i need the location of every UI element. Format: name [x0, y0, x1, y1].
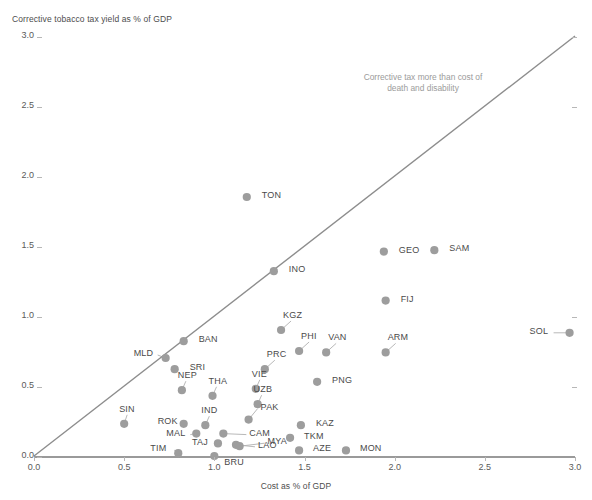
x-tick-label: 0.5: [104, 462, 144, 472]
y-tick-mark-right: [572, 317, 577, 318]
data-point-aze[interactable]: [295, 446, 303, 454]
x-tick-mark: [305, 457, 306, 461]
point-label-kaz: KAZ: [316, 418, 334, 428]
data-point-ton[interactable]: [243, 193, 251, 201]
point-label-nep: NEP: [178, 370, 197, 380]
y-tick-label: 1.5: [0, 240, 34, 250]
y-tick-mark: [37, 247, 42, 248]
y-tick-mark: [37, 387, 42, 388]
point-label-mon: MON: [360, 443, 382, 453]
data-point-png[interactable]: [313, 378, 321, 386]
parity-region-note: Corrective tax more than cost of death a…: [355, 72, 491, 94]
point-label-sol: SOL: [530, 326, 549, 336]
data-point-cam[interactable]: [219, 430, 227, 438]
point-label-kgz: KGZ: [283, 310, 302, 320]
point-label-ton: TON: [262, 190, 281, 200]
data-points: [120, 193, 574, 460]
data-point-ind[interactable]: [201, 421, 209, 429]
point-label-rok: ROK: [158, 416, 178, 426]
data-point-arm[interactable]: [382, 348, 390, 356]
parity-reference-line: [34, 36, 575, 456]
point-label-bru: BRU: [224, 457, 244, 467]
leader-lines: [124, 321, 569, 453]
data-point-kaz[interactable]: [297, 421, 305, 429]
data-point-mon[interactable]: [342, 446, 350, 454]
data-point-phi[interactable]: [295, 347, 303, 355]
data-point-tkm[interactable]: [286, 434, 294, 442]
x-tick-mark: [214, 457, 215, 461]
data-point-pak[interactable]: [244, 416, 252, 424]
data-point-sol[interactable]: [565, 329, 573, 337]
data-point-sin[interactable]: [120, 420, 128, 428]
y-tick-mark: [37, 177, 42, 178]
y-tick-label: 2.5: [0, 100, 34, 110]
point-label-taj: TAJ: [192, 437, 208, 447]
point-label-tkm: TKM: [304, 431, 324, 441]
point-label-mal: MAL: [166, 428, 185, 438]
point-label-tha: THA: [209, 376, 228, 386]
y-tick-label: 0.0: [0, 450, 34, 460]
data-point-ban[interactable]: [180, 337, 188, 345]
y-tick-mark: [37, 37, 42, 38]
y-tick-mark-right: [572, 107, 577, 108]
data-point-kgz[interactable]: [277, 326, 285, 334]
x-tick-label: 2.5: [465, 462, 505, 472]
point-label-png: PNG: [332, 375, 352, 385]
data-point-taj[interactable]: [214, 439, 222, 447]
x-tick-mark: [575, 457, 576, 461]
data-point-sam[interactable]: [430, 246, 438, 254]
y-tick-label: 3.0: [0, 30, 34, 40]
point-label-van: VAN: [328, 332, 346, 342]
x-tick-label: 0.0: [14, 462, 54, 472]
point-label-aze: AZE: [313, 443, 331, 453]
data-point-tha[interactable]: [208, 392, 216, 400]
point-label-tim: TIM: [150, 443, 166, 453]
point-label-ban: BAN: [199, 334, 218, 344]
x-tick-label: 3.0: [555, 462, 592, 472]
data-point-nep[interactable]: [178, 386, 186, 394]
point-label-sam: SAM: [449, 243, 469, 253]
data-point-tim[interactable]: [174, 449, 182, 457]
x-tick-mark: [395, 457, 396, 461]
y-tick-mark: [37, 457, 42, 458]
data-point-mya[interactable]: [235, 442, 243, 450]
point-label-mya: MYA: [268, 436, 287, 446]
y-tick-mark-right: [572, 37, 577, 38]
y-tick-mark-right: [572, 387, 577, 388]
x-tick-label: 2.0: [375, 462, 415, 472]
point-label-prc: PRC: [267, 349, 287, 359]
x-tick-mark: [124, 457, 125, 461]
plot-area: [0, 0, 592, 500]
x-tick-label: 1.5: [285, 462, 325, 472]
data-point-van[interactable]: [322, 348, 330, 356]
y-tick-mark: [37, 317, 42, 318]
data-point-fij[interactable]: [382, 297, 390, 305]
point-label-vie: VIE: [252, 369, 267, 379]
point-label-sin: SIN: [119, 404, 135, 414]
data-point-ino[interactable]: [270, 267, 278, 275]
point-label-mld: MLD: [134, 348, 154, 358]
point-label-geo: GEO: [399, 245, 420, 255]
point-label-pak: PAK: [261, 402, 279, 412]
y-tick-label: 0.5: [0, 380, 34, 390]
point-label-ino: INO: [289, 264, 306, 274]
point-label-arm: ARM: [388, 332, 409, 342]
point-label-uzb: UZB: [254, 384, 273, 394]
x-tick-mark: [34, 457, 35, 461]
y-tick-label: 2.0: [0, 170, 34, 180]
data-point-mld[interactable]: [162, 354, 170, 362]
point-label-ind: IND: [201, 405, 217, 415]
point-label-phi: PHI: [301, 331, 317, 341]
scatter-chart: Corrective tobacco tax yield as % of GDP…: [0, 0, 592, 500]
x-tick-mark: [485, 457, 486, 461]
point-label-fij: FIJ: [401, 294, 414, 304]
y-tick-label: 1.0: [0, 310, 34, 320]
y-tick-mark: [37, 107, 42, 108]
data-point-geo[interactable]: [380, 248, 388, 256]
